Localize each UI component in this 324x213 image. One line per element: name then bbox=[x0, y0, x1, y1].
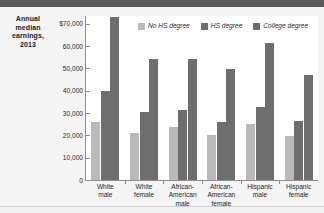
bar[interactable] bbox=[178, 110, 187, 180]
x-axis-tick-label-line: White bbox=[86, 183, 125, 191]
x-axis-tick-label: Whitemale bbox=[86, 183, 125, 200]
x-axis-tick-mark bbox=[279, 180, 280, 184]
bar-group bbox=[169, 16, 197, 180]
bar[interactable] bbox=[294, 121, 303, 180]
x-axis-tick-label: African-Americanfemale bbox=[202, 183, 241, 208]
bar-group bbox=[285, 16, 313, 180]
bar[interactable] bbox=[226, 69, 235, 180]
bar[interactable] bbox=[140, 112, 149, 180]
bar[interactable] bbox=[149, 59, 158, 180]
y-axis-tick-mark bbox=[85, 91, 90, 92]
y-axis-tick-mark bbox=[85, 46, 90, 47]
y-axis-tick-label: 40,000 bbox=[63, 86, 83, 95]
bar[interactable] bbox=[217, 122, 226, 180]
x-axis-tick-label-line: African- bbox=[163, 183, 202, 191]
y-axis-tick-label: 50,000 bbox=[63, 64, 83, 73]
y-axis-tick-label: 60,000 bbox=[63, 42, 83, 51]
bar[interactable] bbox=[188, 59, 197, 180]
bar[interactable] bbox=[246, 124, 255, 180]
bar-group bbox=[130, 16, 158, 180]
x-axis-tick-mark bbox=[163, 180, 164, 184]
x-axis-tick-mark bbox=[241, 180, 242, 184]
x-axis-tick-label-line: White bbox=[125, 183, 164, 191]
y-axis-tick-label: 10,000 bbox=[63, 153, 83, 162]
x-axis-tick-label-line: Hispanic bbox=[279, 183, 318, 191]
x-axis-tick-label-line: female bbox=[279, 191, 318, 199]
x-axis-tick-label-line: male bbox=[86, 191, 125, 199]
bottom-divider bbox=[0, 206, 324, 207]
bar[interactable] bbox=[265, 43, 274, 180]
x-axis-tick-mark bbox=[202, 180, 203, 184]
x-axis-tick-label: Hispanicfemale bbox=[279, 183, 318, 200]
bars-layer bbox=[86, 16, 318, 180]
y-axis-tick-mark bbox=[85, 68, 90, 69]
bar[interactable] bbox=[256, 107, 265, 180]
bar[interactable] bbox=[101, 91, 110, 180]
y-axis-tick-mark bbox=[85, 24, 90, 25]
x-axis-tick-label: African-Americanmale bbox=[163, 183, 202, 208]
y-axis-tick-mark bbox=[85, 180, 90, 181]
bar[interactable] bbox=[91, 122, 100, 180]
y-axis-tick-mark bbox=[85, 158, 90, 159]
x-axis-tick-labels: WhitemaleWhitefemaleAfrican-Americanmale… bbox=[86, 183, 318, 213]
y-axis-tick-label: 30,000 bbox=[63, 109, 83, 118]
bar-group bbox=[246, 16, 274, 180]
bar[interactable] bbox=[285, 136, 294, 180]
x-axis-tick-label-line: male bbox=[241, 191, 280, 199]
x-axis-tick-label: Hispanicmale bbox=[241, 183, 280, 200]
y-axis-tick-mark bbox=[85, 135, 90, 136]
y-axis-tick-labels: 010,00020,00030,00040,00050,00060,000$70… bbox=[50, 7, 83, 206]
x-axis-tick-label-line: American bbox=[163, 191, 202, 199]
y-axis-tick-label: 0 bbox=[79, 176, 83, 185]
x-axis-tick-label-line: Hispanic bbox=[241, 183, 280, 191]
bar[interactable] bbox=[207, 135, 216, 180]
x-axis-tick-label: Whitefemale bbox=[125, 183, 164, 200]
y-axis-tick-label: 20,000 bbox=[63, 131, 83, 140]
top-banner bbox=[0, 0, 324, 7]
x-axis-tick-label-line: African- bbox=[202, 183, 241, 191]
bar[interactable] bbox=[110, 17, 119, 180]
bar[interactable] bbox=[304, 75, 313, 180]
chart-figure: Annual median earnings, 2013 010,00020,0… bbox=[0, 7, 324, 206]
x-axis-tick-label-line: female bbox=[125, 191, 164, 199]
bar[interactable] bbox=[130, 133, 139, 180]
x-axis-tick-mark bbox=[125, 180, 126, 184]
y-axis-title: Annual median earnings, 2013 bbox=[4, 15, 52, 49]
y-axis-tick-label: $70,000 bbox=[59, 19, 83, 28]
x-axis-tick-label-line: American bbox=[202, 191, 241, 199]
y-axis-tick-mark bbox=[85, 113, 90, 114]
bar[interactable] bbox=[169, 127, 178, 180]
bar-group bbox=[91, 16, 119, 180]
bar-group bbox=[207, 16, 235, 180]
